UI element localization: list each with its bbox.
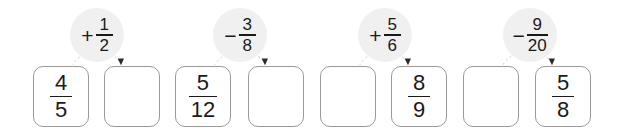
operation-sign-icon: − (512, 25, 524, 46)
connector-arrowhead-icon (405, 59, 411, 66)
operation-bubble: −38 (213, 8, 267, 62)
fraction-answer-box[interactable] (320, 66, 376, 127)
fraction: 12 (96, 16, 113, 54)
fraction-numerator: 8 (411, 72, 427, 96)
fraction-answer-box[interactable] (104, 66, 160, 127)
fraction-answer-box[interactable] (248, 66, 304, 127)
fraction-answer-box[interactable] (463, 66, 519, 127)
connector-arrowhead-icon (262, 59, 268, 66)
fraction-value-box[interactable]: 45 (33, 66, 89, 127)
operation-expression: −920 (512, 16, 547, 54)
fraction: 920 (527, 16, 548, 54)
operation-bubble: +12 (70, 8, 124, 62)
fraction: 89 (408, 72, 430, 122)
connector-arrowhead-icon (118, 59, 124, 66)
fraction-numerator: 5 (386, 16, 397, 35)
connector-dashed-line (547, 57, 553, 64)
operation-bubble: +56 (358, 8, 412, 62)
fraction: 45 (50, 72, 72, 122)
fraction-denominator: 8 (555, 97, 571, 121)
fraction-numerator: 1 (98, 16, 109, 35)
fraction-value-box[interactable]: 89 (391, 66, 447, 127)
fraction-denominator: 5 (53, 97, 69, 121)
operation-expression: +56 (369, 16, 400, 54)
connector-arrowhead-icon (549, 59, 555, 66)
connector-dashed-line (402, 57, 408, 64)
fraction-denominator: 20 (527, 36, 548, 55)
connector-dashed-line (115, 57, 121, 64)
fraction-numerator: 5 (555, 72, 571, 96)
operation-sign-icon: + (81, 25, 93, 46)
fraction-numerator: 4 (53, 72, 69, 96)
fraction: 58 (552, 72, 574, 122)
fraction-numerator: 5 (195, 72, 211, 96)
connector-dashed-line (503, 56, 511, 65)
operation-expression: −38 (224, 16, 255, 54)
fraction-value-box[interactable]: 58 (535, 66, 591, 127)
fraction-denominator: 9 (411, 97, 427, 121)
connector-dashed-line (360, 57, 367, 65)
fraction-denominator: 6 (386, 36, 397, 55)
fraction-value-box[interactable]: 512 (175, 66, 231, 127)
fraction: 56 (384, 16, 401, 54)
fraction: 512 (189, 72, 217, 122)
connector-dashed-line (215, 57, 222, 65)
connector-dashed-line (258, 56, 265, 64)
operation-bubble: −920 (503, 8, 557, 62)
fraction-denominator: 2 (98, 36, 109, 55)
fraction-denominator: 8 (241, 36, 252, 55)
operation-sign-icon: + (369, 25, 381, 46)
fraction-numerator: 3 (241, 16, 252, 35)
connector-dashed-line (73, 57, 80, 65)
fraction: 38 (239, 16, 256, 54)
fraction-numerator: 9 (531, 16, 542, 35)
operation-sign-icon: − (224, 25, 236, 46)
operation-expression: +12 (81, 16, 112, 54)
fraction-worksheet: 455128958 +12−38+56−920 (0, 0, 630, 140)
fraction-denominator: 12 (189, 97, 217, 121)
